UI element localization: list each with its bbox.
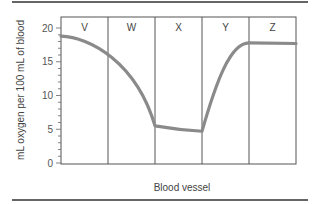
y-tick-label: 10 bbox=[42, 90, 54, 101]
y-tick-label: 15 bbox=[42, 56, 54, 67]
y-tick-label: 5 bbox=[47, 124, 53, 135]
plot-frame bbox=[61, 17, 296, 164]
y-tick-label: 0 bbox=[47, 158, 53, 169]
y-tick-label: 20 bbox=[42, 23, 54, 34]
y-axis-title: mL oxygen per 100 mL of blood bbox=[15, 20, 26, 160]
x-axis-title: Blood vessel bbox=[154, 182, 211, 193]
region-label-v: V bbox=[81, 22, 88, 33]
region-label-z: Z bbox=[269, 22, 275, 33]
region-label-y: Y bbox=[222, 22, 229, 33]
oxygen-content-chart: VWXYZ 05101520 mL oxygen per 100 mL of b… bbox=[0, 0, 312, 204]
oxygen-curve bbox=[61, 36, 296, 131]
y-axis-tick-labels: 05101520 bbox=[42, 23, 54, 169]
region-label-x: X bbox=[175, 22, 182, 33]
region-label-w: W bbox=[127, 22, 137, 33]
y-axis-ticks bbox=[56, 28, 61, 163]
region-labels: VWXYZ bbox=[81, 22, 275, 33]
region-dividers bbox=[108, 17, 249, 164]
